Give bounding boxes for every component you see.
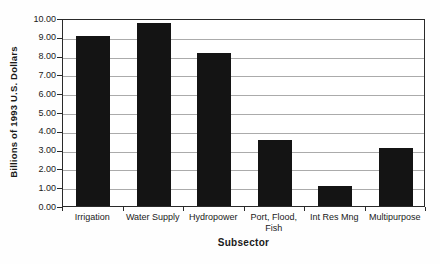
bar-multipurpose [379, 148, 413, 206]
y-axis-title: Billions of 1993 U.S. Dollars [8, 46, 19, 177]
bar-chart-figure: Billions of 1993 U.S. Dollars 0.001.002.… [0, 0, 440, 264]
y-tick-mark [57, 19, 62, 20]
gridline-8.00 [63, 58, 424, 59]
bar-int-res-mng [318, 186, 352, 206]
y-tick-label-4.00: 4.00 [22, 127, 56, 136]
bar-irrigation [76, 36, 110, 206]
bar-port-flood [258, 140, 292, 206]
x-tick-mark [244, 207, 245, 211]
x-category-label-port-flood: Port, Flood, Fish [241, 212, 308, 234]
y-tick-mark [57, 169, 62, 170]
gridline-5.00 [63, 114, 424, 115]
x-axis-title: Subsector [62, 237, 425, 248]
bar-water-supply [137, 23, 171, 206]
gridline-6.00 [63, 95, 424, 96]
bar-hydropower [197, 53, 231, 206]
y-tick-label-8.00: 8.00 [22, 52, 56, 61]
gridline-2.00 [63, 170, 424, 171]
x-tick-mark [304, 207, 305, 211]
y-tick-mark [57, 38, 62, 39]
y-tick-label-1.00: 1.00 [22, 184, 56, 193]
x-category-label-water-supply: Water Supply [120, 212, 187, 223]
y-tick-label-3.00: 3.00 [22, 146, 56, 155]
x-category-label-irrigation: Irrigation [59, 212, 126, 223]
y-tick-label-9.00: 9.00 [22, 33, 56, 42]
gridline-7.00 [63, 76, 424, 77]
x-tick-mark [425, 207, 426, 211]
gridline-9.00 [63, 39, 424, 40]
y-tick-mark [57, 132, 62, 133]
y-tick-label-6.00: 6.00 [22, 90, 56, 99]
x-category-label-multipurpose: Multipurpose [362, 212, 429, 223]
gridline-1.00 [63, 189, 424, 190]
y-tick-mark [57, 113, 62, 114]
y-tick-label-10.00: 10.00 [22, 15, 56, 24]
y-tick-label-0.00: 0.00 [22, 203, 56, 212]
y-tick-label-2.00: 2.00 [22, 165, 56, 174]
y-tick-label-7.00: 7.00 [22, 71, 56, 80]
x-tick-mark [365, 207, 366, 211]
y-tick-label-5.00: 5.00 [22, 109, 56, 118]
x-category-label-int-res-mng: Int Res Mng [301, 212, 368, 223]
y-tick-mark [57, 57, 62, 58]
y-tick-mark [57, 188, 62, 189]
gridline-4.00 [63, 133, 424, 134]
plot-area [62, 19, 425, 207]
x-tick-mark [62, 207, 63, 211]
y-tick-mark [57, 75, 62, 76]
x-category-label-hydropower: Hydropower [180, 212, 247, 223]
y-tick-mark [57, 94, 62, 95]
x-tick-mark [123, 207, 124, 211]
gridline-3.00 [63, 152, 424, 153]
y-tick-mark [57, 151, 62, 152]
x-tick-mark [183, 207, 184, 211]
